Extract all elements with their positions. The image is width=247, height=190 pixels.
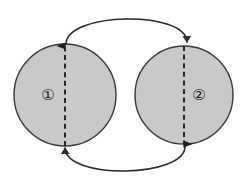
arc-bottom-node2-to-node1 xyxy=(65,146,185,171)
diagram-svg: ① ② xyxy=(0,0,247,190)
node-circle-2[interactable] xyxy=(135,46,233,144)
node-label-1: ① xyxy=(41,86,54,104)
arc-top-node1-to-node2 xyxy=(66,19,187,44)
diagram-canvas: ① ② xyxy=(0,0,247,190)
node-label-2: ② xyxy=(192,86,205,104)
node-2-group[interactable]: ② xyxy=(135,46,233,144)
